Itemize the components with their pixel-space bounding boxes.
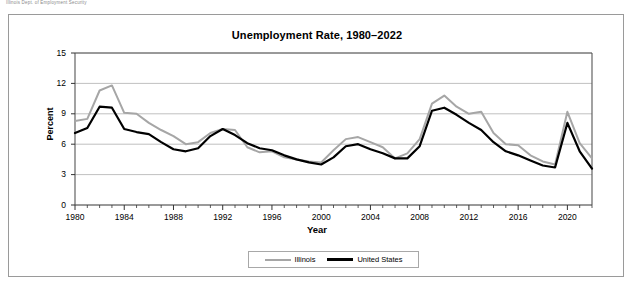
y-tick-label: 0	[42, 200, 66, 210]
chart-page: Illinois Dept. of Employment Security Un…	[0, 0, 633, 284]
legend-label-united-states: United States	[357, 255, 402, 264]
figure-frame: Unemployment Rate, 1980–2022 Percent Yea…	[8, 14, 624, 277]
x-tick-label: 2004	[350, 212, 390, 222]
x-tick-label: 2016	[498, 212, 538, 222]
y-tick-label: 9	[42, 108, 66, 118]
y-tick-label: 3	[42, 169, 66, 179]
plot-area: Percent Year 03691215 198019841988199219…	[9, 15, 625, 278]
x-tick-label: 1984	[104, 212, 144, 222]
chart-legend: Illinois United States	[248, 251, 419, 268]
x-tick-label: 1988	[153, 212, 193, 222]
y-tick-label: 12	[42, 78, 66, 88]
x-tick-label: 1980	[55, 212, 95, 222]
x-axis-title: Year	[9, 224, 625, 235]
x-tick-label: 2020	[547, 212, 587, 222]
line-swatch-illinois-icon	[265, 259, 291, 261]
x-tick-label: 1992	[203, 212, 243, 222]
series-line-illinois	[75, 85, 592, 164]
legend-item-illinois: Illinois	[265, 255, 316, 264]
legend-item-united-states: United States	[327, 255, 402, 264]
y-tick-label: 6	[42, 139, 66, 149]
x-tick-label: 2012	[449, 212, 489, 222]
series-line-united-states	[75, 107, 592, 169]
source-note: Illinois Dept. of Employment Security	[6, 0, 87, 6]
y-tick-label: 15	[42, 48, 66, 58]
legend-label-illinois: Illinois	[295, 255, 316, 264]
x-tick-label: 2000	[301, 212, 341, 222]
x-tick-label: 1996	[252, 212, 292, 222]
line-chart-svg	[9, 15, 625, 278]
x-tick-label: 2008	[400, 212, 440, 222]
line-swatch-united-states-icon	[327, 258, 353, 261]
